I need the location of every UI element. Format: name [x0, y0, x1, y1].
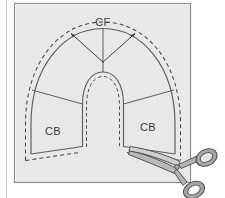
label-center-back-right: CB — [140, 121, 156, 133]
label-center-front: CF — [95, 16, 110, 28]
label-center-back-left: CB — [45, 125, 61, 137]
pivot-point — [102, 61, 104, 63]
pattern-diagram-figure: CF CB CB — [0, 0, 225, 198]
diagram-canvas: CF CB CB — [0, 0, 225, 198]
scissor-handle-upper — [193, 145, 220, 169]
